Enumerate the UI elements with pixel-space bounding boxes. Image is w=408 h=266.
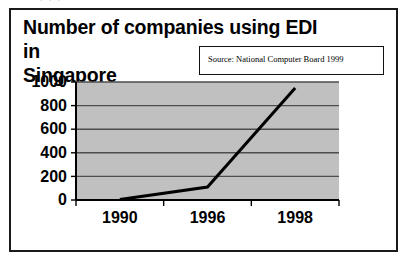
x-axis-tick-label: 1996 xyxy=(190,209,226,226)
y-axis-tick-label: 200 xyxy=(40,168,67,185)
plot-background-group xyxy=(76,82,339,200)
x-axis-tick-label: 1990 xyxy=(102,209,138,226)
figure-frame: Number of companies using EDI in Singapo… xyxy=(9,8,398,252)
y-axis-tick-label: 600 xyxy=(40,120,67,137)
x-axis-labels-group: 199019961998 xyxy=(102,209,313,226)
y-axis-tick-label: 1000 xyxy=(31,73,67,90)
plot-background xyxy=(76,82,339,200)
y-axis-tick-label: 800 xyxy=(40,97,67,114)
clipped-text-above: . . . xyxy=(40,0,370,3)
y-axis-labels-group: 02004006008001000 xyxy=(31,73,67,208)
line-chart-svg: 02004006008001000 199019961998 xyxy=(11,10,400,254)
y-axis-tick-label: 400 xyxy=(40,144,67,161)
chart-plot-region: 02004006008001000 199019961998 xyxy=(11,10,400,254)
y-axis-tick-label: 0 xyxy=(58,191,67,208)
x-axis-tick-label: 1998 xyxy=(277,209,313,226)
